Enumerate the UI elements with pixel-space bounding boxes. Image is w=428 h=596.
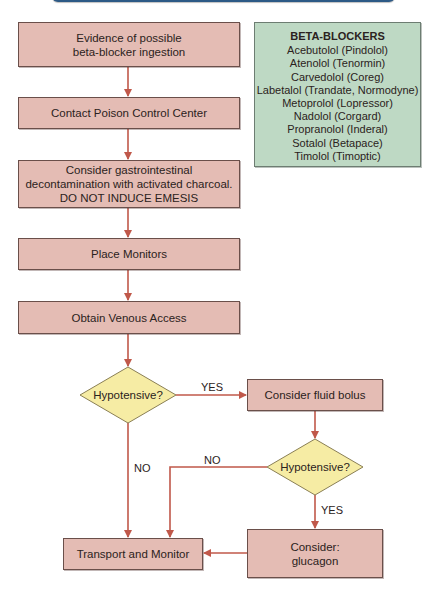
step-monitors: Place Monitors <box>18 238 240 270</box>
step-decontamination: Consider gastrointestinal decontaminatio… <box>18 160 240 208</box>
step-poison-control-label: Contact Poison Control Center <box>51 106 207 120</box>
step-evidence-line-2: beta-blocker ingestion <box>73 45 186 59</box>
beta-blocker-item: Atenolol (Tenormin) <box>255 57 420 70</box>
step-poison-control: Contact Poison Control Center <box>18 97 240 129</box>
beta-blocker-item: Acebutolol (Pindolol) <box>255 44 420 57</box>
step-fluid-bolus-label: Consider fluid bolus <box>264 388 365 402</box>
step-venous-access: Obtain Venous Access <box>18 301 240 334</box>
step-glucagon-line-2: glucagon <box>290 554 339 568</box>
step-evidence: Evidence of possible beta-blocker ingest… <box>18 22 240 67</box>
step-glucagon: Consider: glucagon <box>247 529 383 578</box>
beta-blocker-item: Propranolol (Inderal) <box>255 123 420 136</box>
edge-label-decision-2-no: NO <box>204 454 221 466</box>
step-monitors-label: Place Monitors <box>91 247 167 261</box>
decision-2-label: Hypotensive? <box>280 461 350 473</box>
beta-blocker-item: Metoprolol (Lopressor) <box>255 97 420 110</box>
beta-blocker-item: Sotalol (Betapace) <box>255 137 420 150</box>
step-decontamination-line-2: decontamination with activated charcoal. <box>25 177 232 191</box>
step-fluid-bolus: Consider fluid bolus <box>247 379 383 411</box>
step-glucagon-line-1: Consider: <box>290 540 339 554</box>
decision-1-label: Hypotensive? <box>93 389 163 401</box>
step-transport: Transport and Monitor <box>63 538 203 570</box>
step-decontamination-line-3: DO NOT INDUCE EMESIS <box>25 191 232 205</box>
step-venous-access-label: Obtain Venous Access <box>71 311 186 325</box>
beta-blockers-title: BETA-BLOCKERS <box>255 30 420 43</box>
beta-blocker-item: Labetalol (Trandate, Normodyne) <box>255 84 420 97</box>
step-transport-label: Transport and Monitor <box>77 547 190 561</box>
beta-blocker-item: Carvedolol (Coreg) <box>255 71 420 84</box>
arrow-decision-2-no <box>170 467 267 537</box>
beta-blocker-item: Timolol (Timoptic) <box>255 150 420 163</box>
edge-label-decision-2-yes: YES <box>321 504 343 516</box>
step-evidence-line-1: Evidence of possible <box>73 31 186 45</box>
beta-blockers-info-box: BETA-BLOCKERS Acebutolol (Pindolol) Aten… <box>254 22 421 167</box>
edge-label-decision-1-yes: YES <box>201 381 223 393</box>
beta-blocker-item: Nadolol (Corgard) <box>255 110 420 123</box>
step-decontamination-line-1: Consider gastrointestinal <box>25 163 232 177</box>
edge-label-decision-1-no: NO <box>134 462 151 474</box>
